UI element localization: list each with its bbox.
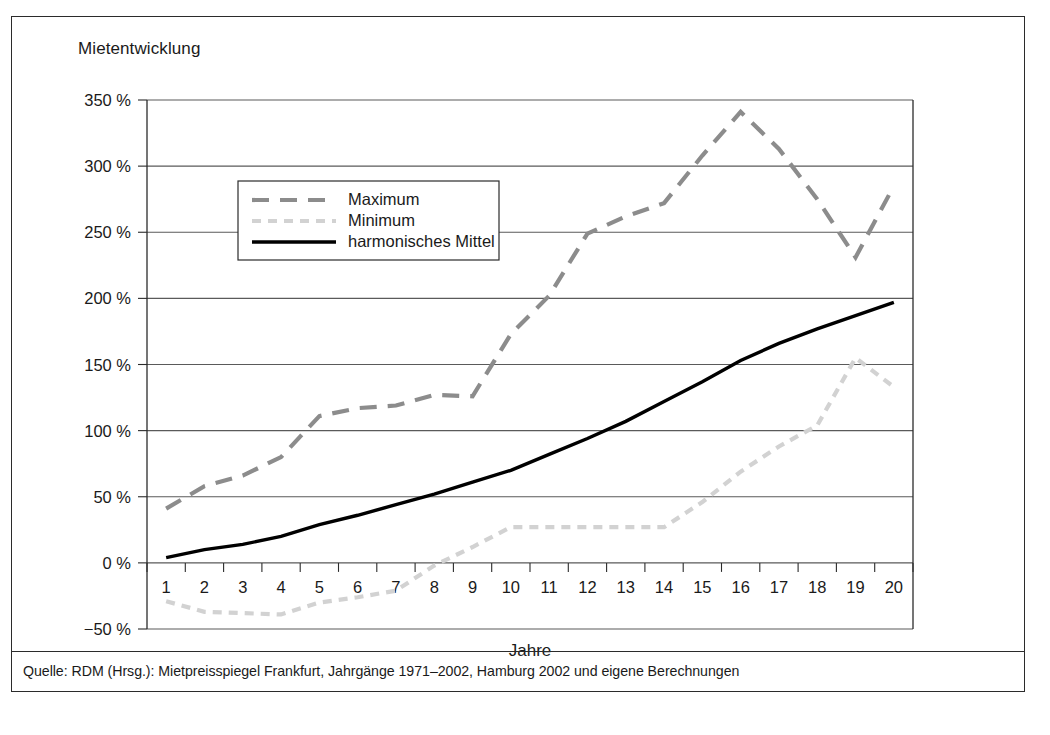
legend-label: Minimum xyxy=(348,211,415,229)
chart-plot: 350 %300 %250 %200 %150 %100 %50 %0 %−50… xyxy=(0,0,1050,735)
xtick-labels-group: 1234567891011121314151617181920 xyxy=(162,578,903,596)
source-divider xyxy=(12,651,1024,652)
xtick-label: 2 xyxy=(200,578,209,596)
ytick-label: 250 % xyxy=(84,223,131,241)
ytick-label: −50 % xyxy=(84,620,132,638)
xtick-label: 9 xyxy=(468,578,477,596)
xtick-label: 20 xyxy=(885,578,903,596)
series-line-maximum xyxy=(166,112,894,509)
xtick-label: 5 xyxy=(315,578,324,596)
xtick-label: 8 xyxy=(430,578,439,596)
xtick-label: 10 xyxy=(502,578,520,596)
xtick-label: 17 xyxy=(770,578,788,596)
legend-label: harmonisches Mittel xyxy=(348,232,495,250)
xtick-label: 15 xyxy=(693,578,711,596)
ytick-labels-group: 350 %300 %250 %200 %150 %100 %50 %0 %−50… xyxy=(84,91,132,638)
xtick-label: 16 xyxy=(731,578,749,596)
ytick-label: 200 % xyxy=(84,289,131,307)
xtick-label: 18 xyxy=(808,578,826,596)
ytick-label: 50 % xyxy=(93,488,131,506)
series-line-harmonisches-mittel xyxy=(166,302,894,557)
xtick-label: 4 xyxy=(276,578,285,596)
ytick-label: 150 % xyxy=(84,356,131,374)
xtick-label: 13 xyxy=(617,578,635,596)
xtick-label: 6 xyxy=(353,578,362,596)
series-line-minimum xyxy=(166,358,894,615)
xtick-label: 11 xyxy=(541,578,558,596)
xtick-label: 3 xyxy=(238,578,247,596)
ytick-label: 300 % xyxy=(84,157,131,175)
xticks-group xyxy=(147,563,913,572)
gridlines-group xyxy=(138,100,913,629)
legend: MaximumMinimumharmonisches Mittel xyxy=(238,181,499,260)
xtick-label: 14 xyxy=(655,578,673,596)
xtick-label: 12 xyxy=(578,578,596,596)
legend-label: Maximum xyxy=(348,190,420,208)
ytick-label: 0 % xyxy=(103,554,132,572)
xtick-label: 19 xyxy=(846,578,864,596)
ytick-label: 350 % xyxy=(84,91,131,109)
ytick-label: 100 % xyxy=(84,422,131,440)
source-note: Quelle: RDM (Hrsg.): Mietpreisspiegel Fr… xyxy=(23,663,739,679)
xtick-label: 1 xyxy=(162,578,171,596)
